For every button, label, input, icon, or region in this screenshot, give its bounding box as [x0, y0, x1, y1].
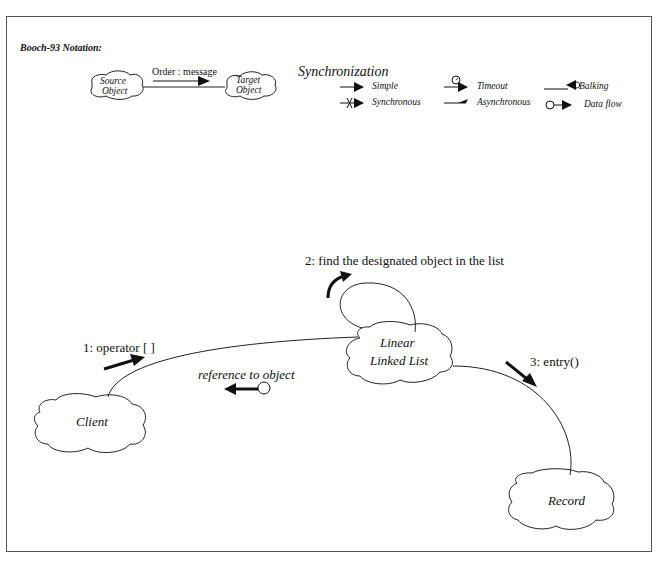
sync-label-data-flow: Data flow [584, 100, 622, 110]
linear-linked-list-label-2: Linked List [370, 354, 428, 367]
operator-message-arrow-icon [104, 354, 145, 369]
find-message-arrow-icon [328, 271, 352, 298]
target-object-label-2: Object [236, 86, 261, 96]
message-2-label: 2: find the designated object in the lis… [305, 254, 504, 267]
record-label: Record [548, 494, 585, 507]
notation-title: Booch-93 Notation: [20, 43, 102, 53]
message-arrow-icon [153, 76, 210, 86]
sync-label-timeout: Timeout [477, 82, 508, 92]
sync-label-synchronous: Synchronous [372, 98, 421, 108]
list-record-link [453, 366, 571, 475]
asynchronous-arrow-icon [444, 99, 468, 103]
message-3-label: 3: entry() [530, 355, 579, 368]
message-1-label: 1: operator [ ] [83, 341, 155, 354]
source-object-label-2: Object [102, 87, 127, 97]
return-message-label: reference to object [198, 368, 295, 381]
linear-linked-list-label-1: Linear [380, 336, 415, 349]
timeout-arrow-icon [444, 76, 468, 92]
sync-label-balking: Balking [579, 82, 609, 92]
return-data-flow-arrow-icon [224, 382, 270, 395]
synchronization-heading: Synchronization [298, 65, 388, 79]
simple-arrow-icon [340, 82, 364, 92]
self-link [340, 283, 415, 332]
data-flow-arrow-icon [546, 100, 572, 110]
sync-label-asynchronous: Asynchronous [477, 98, 530, 108]
message-label: Order : message [152, 67, 217, 77]
synchronous-arrow-icon [340, 98, 364, 108]
sync-label-simple: Simple [372, 82, 398, 92]
client-label: Client [76, 415, 108, 428]
balking-arrow-icon [544, 80, 580, 90]
